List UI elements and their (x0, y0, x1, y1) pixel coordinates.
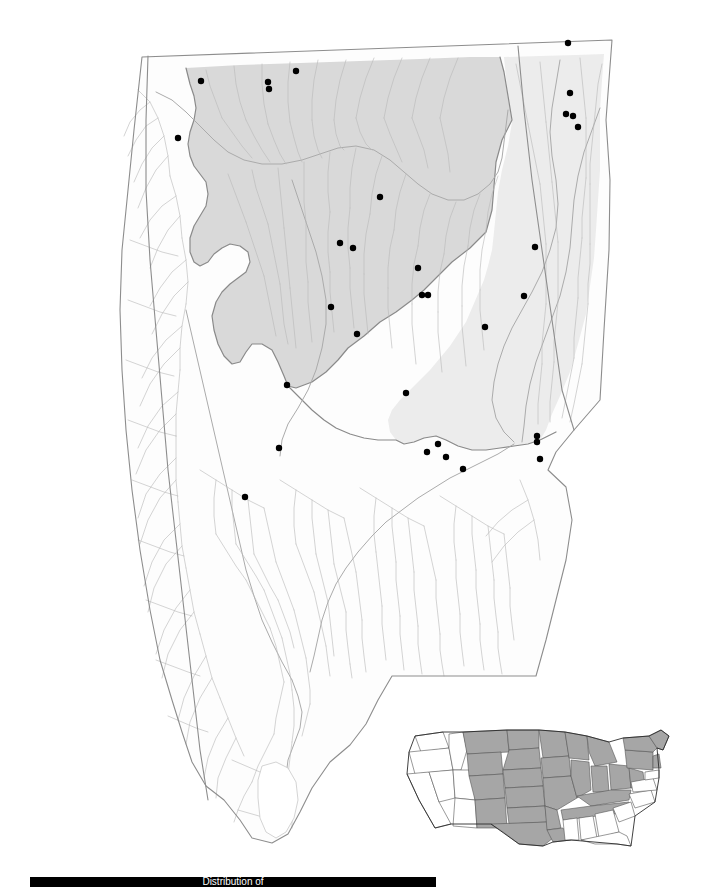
inset-state-indiana (591, 766, 609, 792)
record-dot (537, 456, 543, 462)
record-dot (424, 449, 430, 455)
inset-state-kansas (505, 786, 545, 808)
record-dot (242, 494, 248, 500)
inset-state-pennsylvania (625, 750, 653, 770)
record-dot (328, 304, 334, 310)
inset-state-nebraska (503, 768, 543, 788)
record-dot (415, 265, 421, 271)
record-dot (425, 292, 431, 298)
record-dot (534, 433, 540, 439)
inset-state-wisconsin (565, 732, 589, 760)
record-dot (482, 324, 488, 330)
record-dot (266, 86, 272, 92)
record-dot (563, 111, 569, 117)
record-dot (284, 382, 290, 388)
inset-state-new-jersey (653, 754, 661, 768)
alabama-map-svg (0, 0, 715, 887)
record-dot (575, 124, 581, 130)
inset-state-arizona (453, 798, 477, 828)
record-dot (276, 445, 282, 451)
inset-state-oklahoma (507, 806, 547, 824)
record-dot (521, 293, 527, 299)
inset-state-south-dakota (503, 748, 541, 770)
record-dot (435, 441, 441, 447)
inset-state-oregon (409, 748, 453, 774)
record-dot (567, 90, 573, 96)
inset-state-wyoming (467, 752, 503, 776)
figure-caption-bar: Distribution of (30, 877, 436, 887)
record-dot (443, 454, 449, 460)
inset-state-maryland (645, 770, 659, 780)
record-dot (198, 78, 204, 84)
record-dot (175, 135, 181, 141)
inset-state-montana (463, 730, 509, 754)
record-dot (534, 439, 540, 445)
inset-state-minnesota (539, 730, 569, 758)
record-dot (350, 245, 356, 251)
inset-state-iowa (541, 756, 571, 778)
record-dot (403, 390, 409, 396)
inset-state-mississippi (563, 818, 579, 840)
record-dot (265, 79, 271, 85)
inset-state-north-dakota (507, 730, 539, 750)
record-dot (532, 244, 538, 250)
record-dot (337, 240, 343, 246)
record-dot (460, 466, 466, 472)
record-dot (293, 68, 299, 74)
record-dot (419, 292, 425, 298)
us-inset-map (395, 728, 669, 846)
inset-state-colorado (469, 774, 505, 800)
record-dot (377, 194, 383, 200)
record-dot (354, 331, 360, 337)
figure-canvas: Distribution of (0, 0, 715, 887)
record-dot (570, 113, 576, 119)
record-dot (565, 40, 571, 46)
